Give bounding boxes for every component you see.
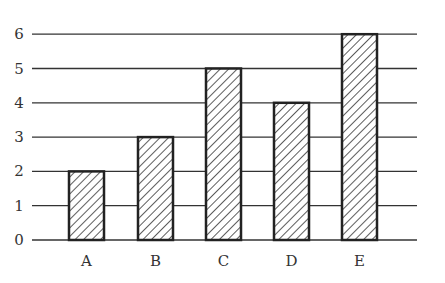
x-category-label: D: [285, 252, 297, 270]
x-category-label: E: [354, 252, 365, 270]
x-category-label: A: [80, 252, 92, 270]
y-axis-tick-labels: 0123456: [14, 25, 24, 249]
bar-A: [69, 171, 104, 240]
y-tick-label: 6: [14, 25, 24, 43]
y-tick-label: 3: [14, 128, 24, 146]
bar-B: [138, 137, 173, 240]
y-tick-label: 5: [14, 60, 24, 78]
x-axis-category-labels: ABCDE: [80, 252, 365, 270]
bar-C: [206, 69, 241, 241]
y-tick-label: 1: [14, 197, 24, 215]
bar-D: [274, 103, 309, 240]
bar-E: [342, 34, 377, 240]
x-category-label: C: [218, 252, 229, 270]
y-tick-label: 2: [14, 162, 24, 180]
y-tick-label: 4: [14, 94, 24, 112]
x-category-label: B: [150, 252, 161, 270]
bar-chart: 0123456 ABCDE: [0, 0, 445, 283]
y-tick-label: 0: [14, 231, 24, 249]
